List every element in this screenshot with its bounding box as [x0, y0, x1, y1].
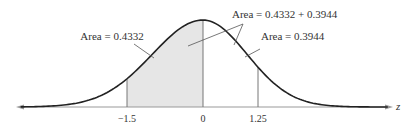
area-label-right: Area = 0.3944	[261, 30, 325, 42]
normal-curve	[21, 20, 388, 107]
axis-variable-label: z	[395, 100, 401, 112]
leader-line-left	[134, 44, 154, 58]
area-label-sum: Area = 0.4332 + 0.3944	[232, 8, 338, 20]
chart-canvas: z Area = 0.4332 Area = 0.4332 + 0.3944 A…	[0, 0, 414, 129]
normal-distribution-figure: z Area = 0.4332 Area = 0.4332 + 0.3944 A…	[0, 0, 414, 129]
tick-label-zero: 0	[201, 113, 206, 124]
tick-label-1-25: 1.25	[249, 113, 267, 124]
area-label-left: Area = 0.4332	[80, 30, 143, 42]
leader-line-right	[245, 49, 260, 57]
tick-label-neg-1-5: −1.5	[118, 113, 136, 124]
